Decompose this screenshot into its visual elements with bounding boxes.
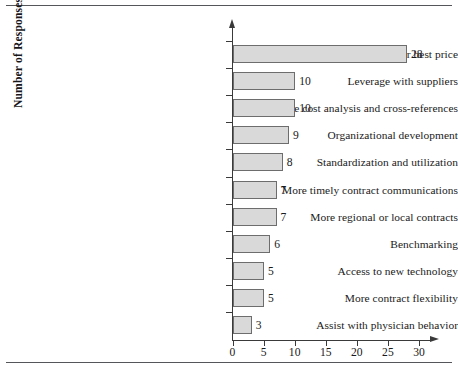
bar-row: Organizational development9 — [0, 122, 458, 149]
y-axis-tick — [226, 68, 233, 69]
bar — [233, 99, 295, 117]
bar — [233, 72, 295, 90]
x-axis-tick-label: 15 — [311, 346, 341, 359]
x-axis-tick-label: 10 — [280, 346, 310, 359]
bar — [233, 208, 277, 226]
y-axis-tick — [226, 231, 233, 232]
bar-value-label: 9 — [293, 122, 299, 149]
bar — [233, 153, 283, 171]
bar-value-label: 3 — [256, 312, 262, 339]
y-axis-tick — [226, 41, 233, 42]
bar-category-label: Assist with physician behavior — [234, 312, 458, 339]
bar — [233, 45, 407, 63]
bar-row: Access to new technology5 — [0, 258, 458, 285]
bar-row: Standardization and utilization8 — [0, 149, 458, 176]
y-axis-tick — [226, 122, 233, 123]
plot-area: Best product for best price28Leverage wi… — [0, 0, 458, 374]
y-axis-tick — [226, 312, 233, 313]
chart-figure: Best product for best price28Leverage wi… — [0, 0, 458, 374]
x-axis-tick-label: 20 — [342, 346, 372, 359]
y-axis-tick — [226, 177, 233, 178]
bar-value-label: 8 — [287, 149, 293, 176]
bar — [233, 262, 264, 280]
x-axis-tick-label: 25 — [373, 346, 403, 359]
bar — [233, 316, 252, 334]
bar — [233, 289, 264, 307]
bar-value-label: 10 — [299, 95, 311, 122]
bar-row: More contract flexibility5 — [0, 285, 458, 312]
bar-value-label: 6 — [274, 231, 280, 258]
x-axis-line — [232, 340, 432, 341]
y-axis-tick — [226, 95, 233, 96]
x-axis-tick-label: 0 — [218, 346, 248, 359]
bar — [233, 181, 277, 199]
bar-value-label: 7 — [281, 204, 287, 231]
bar-row: Best product for best price28 — [0, 41, 458, 68]
bar — [233, 235, 270, 253]
y-axis-tick — [226, 285, 233, 286]
bar-value-label: 28 — [411, 41, 423, 68]
y-axis-tick — [226, 204, 233, 205]
x-axis-tick-label: 5 — [249, 346, 279, 359]
bar-row: More cost analysis and cross-references1… — [0, 95, 458, 122]
bar-value-label: 7 — [281, 177, 287, 204]
y-axis-arrow-icon — [229, 19, 235, 28]
x-axis-tick-label: 30 — [404, 346, 434, 359]
bar-value-label: 5 — [268, 285, 274, 312]
y-axis-title: Number of Responses — [12, 0, 25, 108]
bar-value-label: 5 — [268, 258, 274, 285]
y-axis-tick — [226, 149, 233, 150]
bar-row: More timely contract communications7 — [0, 177, 458, 204]
bar-row: Assist with physician behavior3 — [0, 312, 458, 339]
bar-row: Leverage with suppliers10 — [0, 68, 458, 95]
bar-row: Benchmarking6 — [0, 231, 458, 258]
y-axis-tick — [226, 258, 233, 259]
bar — [233, 126, 289, 144]
bar-row: More regional or local contracts7 — [0, 204, 458, 231]
bar-value-label: 10 — [299, 68, 311, 95]
